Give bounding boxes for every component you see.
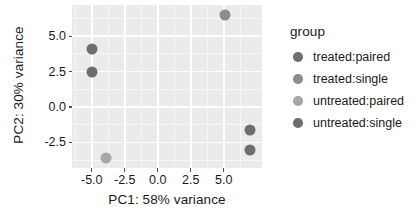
pca-scatter-plot: PC2: 30% variance 5.02.50.0-2.5 -5.0-2.5… — [0, 0, 420, 220]
legend-item[interactable]: treated:paired — [288, 46, 418, 68]
legend-item-label: untreated:single — [313, 116, 402, 130]
gridline-minor-vertical — [174, 5, 175, 168]
legend-key-swatch — [288, 47, 308, 67]
legend-key-swatch — [288, 113, 308, 133]
y-axis-tick-mark — [69, 36, 73, 37]
legend-item[interactable]: untreated:single — [288, 112, 418, 134]
x-axis-title: PC1: 58% variance — [72, 192, 262, 207]
x-axis-tick-mark — [190, 168, 191, 172]
data-point — [245, 144, 256, 155]
x-axis-tick-mark — [223, 168, 224, 172]
x-axis-tick-mark — [157, 168, 158, 172]
x-axis-tick-label: 0.0 — [149, 173, 166, 187]
legend-key-swatch — [288, 91, 308, 111]
y-axis-tick-mark — [69, 106, 73, 107]
y-axis-tick-labels: 5.02.50.0-2.5 — [0, 0, 66, 220]
gridline-minor-horizontal — [72, 18, 262, 19]
gridline-major-vertical — [223, 5, 225, 168]
data-point — [220, 9, 231, 20]
gridline-major-vertical — [91, 5, 93, 168]
data-point — [245, 124, 256, 135]
gridline-minor-vertical — [75, 5, 76, 168]
legend-item[interactable]: untreated:paired — [288, 90, 418, 112]
x-axis-tick-label: 2.5 — [182, 173, 199, 187]
y-axis-tick-label: 0.0 — [49, 100, 66, 114]
gridline-minor-horizontal — [72, 89, 262, 90]
gridline-major-horizontal — [72, 35, 262, 37]
y-axis-tick-mark — [69, 142, 73, 143]
gridline-major-vertical — [190, 5, 192, 168]
gridline-major-vertical — [157, 5, 159, 168]
gridline-major-horizontal — [72, 71, 262, 73]
x-axis-tick-mark — [91, 168, 92, 172]
legend-dot-icon — [293, 96, 303, 106]
y-axis-tick-label: -2.5 — [44, 135, 66, 149]
legend-item-label: untreated:paired — [313, 94, 404, 108]
legend-key-swatch — [288, 69, 308, 89]
x-axis-tick-label: 5.0 — [215, 173, 232, 187]
plot-panel — [72, 5, 262, 168]
legend-title: group — [290, 24, 418, 39]
legend: group treated:pairedtreated:singleuntrea… — [288, 24, 418, 134]
legend-dot-icon — [293, 118, 303, 128]
gridline-minor-horizontal — [72, 53, 262, 54]
legend-item[interactable]: treated:single — [288, 68, 418, 90]
x-axis-tick-mark — [124, 168, 125, 172]
legend-dot-icon — [293, 52, 303, 62]
legend-item-label: treated:single — [313, 72, 388, 86]
gridline-minor-vertical — [108, 5, 109, 168]
gridline-minor-vertical — [240, 5, 241, 168]
y-axis-tick-label: 2.5 — [49, 65, 66, 79]
legend-dot-icon — [293, 74, 303, 84]
data-point — [101, 153, 112, 164]
x-axis-tick-label: -2.5 — [114, 173, 136, 187]
data-point — [86, 43, 97, 54]
gridline-major-horizontal — [72, 142, 262, 144]
legend-items: treated:pairedtreated:singleuntreated:pa… — [288, 46, 418, 134]
gridline-minor-horizontal — [72, 124, 262, 125]
gridline-minor-vertical — [141, 5, 142, 168]
gridline-major-vertical — [124, 5, 126, 168]
y-axis-tick-mark — [69, 71, 73, 72]
data-point — [86, 67, 97, 78]
legend-item-label: treated:paired — [313, 50, 390, 64]
gridline-minor-vertical — [207, 5, 208, 168]
gridline-major-horizontal — [72, 106, 262, 108]
x-axis-tick-label: -5.0 — [81, 173, 103, 187]
y-axis-tick-label: 5.0 — [49, 29, 66, 43]
